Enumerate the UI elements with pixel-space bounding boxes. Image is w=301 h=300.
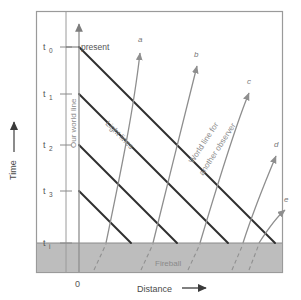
origin-tick-label: 0 (75, 279, 80, 289)
curve-label-c: c (247, 77, 251, 86)
curve-label-b: b (194, 50, 199, 59)
tick-t2-sub: 2 (49, 145, 53, 152)
curve-label-d: d (274, 140, 279, 149)
spacetime-figure: Time Distance 0 t 0 t 1 t 2 t 3 t i pres… (0, 0, 301, 300)
distance-axis-title: Distance (137, 284, 172, 294)
fireball-label: Fireball (155, 259, 181, 268)
tick-t1-sub: 1 (49, 94, 53, 101)
tick-t0-sub: 0 (49, 47, 53, 54)
time-axis-title: Time (8, 160, 18, 180)
tick-t3-sub: 3 (49, 191, 53, 198)
curve-label-e: e (284, 195, 289, 204)
present-label: present (81, 42, 110, 52)
tick-ti-sub: i (49, 243, 50, 250)
our-world-line-label: Our world line (69, 98, 78, 148)
curve-label-a: a (138, 35, 143, 44)
